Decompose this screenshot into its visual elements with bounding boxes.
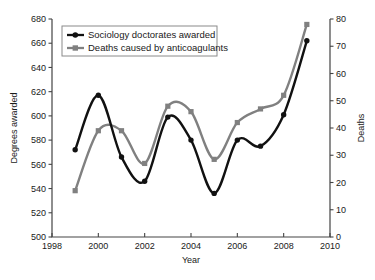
x-axis-title: Year: [182, 255, 200, 265]
legend-item-2[interactable]: Deaths caused by anticoagulants: [67, 42, 228, 53]
chart-legend: Sociology doctorates awardedDeaths cause…: [62, 26, 228, 56]
y-axis-left-tick-label: 600: [31, 111, 46, 121]
square-marker-icon: [73, 188, 78, 193]
circle-marker-icon: [235, 137, 240, 142]
circle-marker-icon: [73, 32, 79, 38]
circle-marker-icon: [119, 154, 124, 159]
circle-marker-icon: [281, 112, 286, 117]
square-marker-icon: [73, 45, 78, 50]
y-axis-right-tick-label: 20: [336, 178, 346, 188]
square-marker-icon: [119, 128, 124, 133]
x-axis-tick-label: 2006: [227, 241, 247, 251]
circle-marker-icon: [72, 147, 77, 152]
square-marker-icon: [165, 104, 170, 109]
y-axis-left-tick-label: 640: [31, 63, 46, 73]
square-marker-icon: [142, 161, 147, 166]
square-marker-icon: [304, 22, 309, 27]
y-axis-left-tick-label: 660: [31, 38, 46, 48]
circle-marker-icon: [258, 143, 263, 148]
x-axis-tick-label: 2000: [88, 241, 108, 251]
y-axis-left-tick-label: 520: [31, 208, 46, 218]
y-axis-left-tick-label: 540: [31, 184, 46, 194]
y-axis-right-tick-label: 10: [336, 205, 346, 215]
y-axis-right-tick-label: 30: [336, 150, 346, 160]
legend-item-1[interactable]: Sociology doctorates awarded: [67, 29, 215, 40]
x-axis-tick-label: 1998: [42, 241, 62, 251]
chart-container: 500520540560580600620640660680 010203040…: [0, 0, 375, 280]
x-axis-tick-label: 2010: [320, 241, 340, 251]
square-marker-icon: [96, 128, 101, 133]
circle-marker-icon: [188, 137, 193, 142]
square-marker-icon: [258, 106, 263, 111]
legend-item-label: Deaths caused by anticoagulants: [88, 42, 228, 53]
x-axis-tick-label: 2008: [274, 241, 294, 251]
y-axis-right-tick-label: 70: [336, 41, 346, 51]
circle-marker-icon: [96, 93, 101, 98]
y-axis-left-title: Degrees awarded: [9, 92, 19, 163]
y-axis-left-tick-label: 620: [31, 87, 46, 97]
y-axis-right-tick-label: 50: [336, 96, 346, 106]
y-axis-left-tick-label: 580: [31, 135, 46, 145]
line-chart: 500520540560580600620640660680 010203040…: [0, 0, 375, 280]
square-marker-icon: [188, 109, 193, 114]
circle-marker-icon: [304, 38, 309, 43]
circle-marker-icon: [142, 179, 147, 184]
x-axis-tick-label: 2004: [181, 241, 201, 251]
x-axis-tick-label: 2002: [135, 241, 155, 251]
legend-item-label: Sociology doctorates awarded: [88, 29, 215, 40]
y-axis-left-tick-label: 560: [31, 160, 46, 170]
circle-marker-icon: [211, 191, 216, 196]
y-axis-right-tick-label: 80: [336, 14, 346, 24]
circle-marker-icon: [165, 114, 170, 119]
square-marker-icon: [235, 120, 240, 125]
y-axis-left-tick-label: 680: [31, 14, 46, 24]
y-axis-right-tick-label: 40: [336, 123, 346, 133]
y-axis-right-title: Deaths: [356, 113, 366, 142]
y-axis-right-tick-label: 60: [336, 69, 346, 79]
square-marker-icon: [212, 157, 217, 162]
square-marker-icon: [281, 93, 286, 98]
